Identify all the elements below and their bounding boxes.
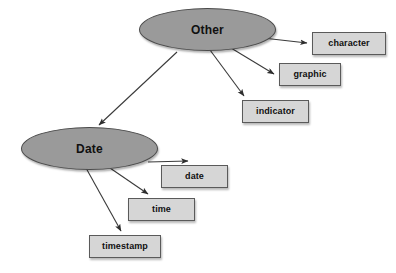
edge-other-character [263,38,307,43]
node-other[interactable]: Other [139,8,276,51]
node-time[interactable]: time [128,198,195,221]
node-character[interactable]: character [312,32,386,55]
node-date[interactable]: date [161,165,228,188]
edge-other-indicator [210,50,244,96]
edge-date-group-date [148,161,188,162]
node-graphic-label: graphic [293,70,326,79]
node-character-label: character [328,39,369,48]
node-date-group[interactable]: Date [21,127,158,170]
node-timestamp-label: timestamp [102,242,148,251]
node-indicator[interactable]: indicator [242,100,309,123]
edge-date-group-time [110,168,148,194]
diagram-canvas: Other Date character graphic indicator d… [0,0,396,273]
edge-date-group-timestamp [86,168,121,231]
node-date-group-label: Date [76,143,103,155]
node-other-label: Other [191,24,224,36]
edge-other-date-group [99,52,177,125]
node-time-label: time [152,205,171,214]
node-indicator-label: indicator [256,107,295,116]
node-timestamp[interactable]: timestamp [89,235,161,258]
node-graphic[interactable]: graphic [279,63,341,86]
node-date-label: date [185,172,204,181]
edge-other-graphic [231,48,274,74]
